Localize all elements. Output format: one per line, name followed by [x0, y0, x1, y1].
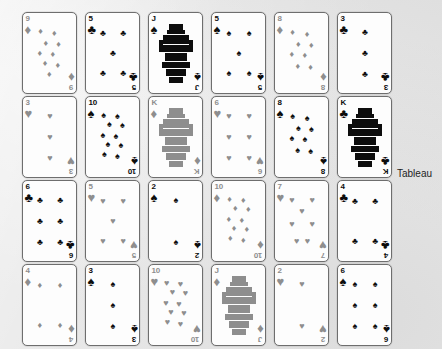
card-pip-field: ♥♥♥♥♥♥♥♥♥♥	[158, 276, 194, 334]
pip-diamond-icon: ♦	[43, 59, 48, 68]
pip-club-icon: ♣	[57, 196, 63, 205]
card-pip-field: ♥♥	[284, 276, 320, 334]
card-suit-spade-icon: ♠	[131, 155, 138, 168]
card-pip-field: ♣♣♣♣♣♣	[32, 192, 68, 250]
pip-diamond-icon: ♦	[305, 30, 310, 39]
playing-card[interactable]: 9♦9♦♦♦♦♦♦♦♦♦♦	[22, 12, 77, 94]
playing-card[interactable]: 7♥7♥♥♥♥♥♥♥♥	[274, 180, 329, 262]
pip-heart-icon: ♥	[226, 133, 231, 142]
playing-card[interactable]: K♦K♦	[148, 96, 203, 178]
pip-diamond-icon: ♦	[232, 223, 237, 232]
playing-card[interactable]: 3♣3♣♣♣♣	[337, 12, 392, 94]
playing-card[interactable]: 8♠8♠♠♠♠♠♠♠♠♠	[274, 96, 329, 178]
pip-heart-icon: ♥	[100, 197, 105, 206]
card-suit-spade-icon: ♠	[194, 239, 201, 252]
card-suit-spade-icon: ♠	[151, 191, 158, 204]
card-suit-diamond-icon: ♦	[25, 23, 32, 36]
pip-spade-icon: ♠	[227, 29, 232, 38]
pip-spade-icon: ♠	[174, 196, 179, 205]
playing-card[interactable]: J♠J♠	[148, 12, 203, 94]
playing-card[interactable]: 5♥5♥♥♥♥♥♥	[85, 180, 140, 262]
pip-heart-icon: ♥	[110, 217, 115, 226]
pip-club-icon: ♣	[120, 29, 126, 38]
pip-spade-icon: ♠	[174, 237, 179, 246]
playing-card[interactable]: 4♦4♦♦♦♦♦	[22, 264, 77, 346]
playing-card[interactable]: J♦J♦	[211, 264, 266, 346]
pip-spade-icon: ♠	[107, 120, 112, 129]
card-suit-spade-icon: ♠	[320, 155, 327, 168]
pip-club-icon: ♣	[362, 69, 368, 78]
pip-club-icon: ♣	[362, 49, 368, 58]
playing-card[interactable]: 4♣4♣♣♣♣♣	[337, 180, 392, 262]
card-suit-diamond-icon: ♦	[214, 191, 221, 204]
card-suit-diamond-icon: ♦	[320, 71, 327, 84]
pip-heart-icon: ♥	[289, 219, 294, 228]
playing-card[interactable]: 6♥6♥♥♥♥♥♥♥	[211, 96, 266, 178]
pip-heart-icon: ♥	[168, 307, 173, 316]
playing-card[interactable]: 3♠3♠♠♠♠	[85, 264, 140, 346]
pip-diamond-icon: ♦	[308, 62, 313, 71]
pip-spade-icon: ♠	[353, 321, 358, 330]
card-pip-field: ♥♥♥♥♥	[95, 192, 131, 250]
pip-diamond-icon: ♦	[290, 28, 295, 37]
playing-card[interactable]: 2♠2♠♠♠	[148, 180, 203, 262]
card-suit-diamond-icon: ♦	[68, 71, 75, 84]
card-pip-field: ♦♦♦♦	[32, 276, 68, 334]
pip-club-icon: ♣	[362, 28, 368, 37]
pip-club-icon: ♣	[57, 217, 63, 226]
card-suit-spade-icon: ♠	[131, 323, 138, 336]
pip-heart-icon: ♥	[165, 318, 170, 327]
card-pip-field: ♥♥♥♥♥♥♥	[284, 192, 320, 250]
playing-card[interactable]: K♣K♣	[337, 96, 392, 178]
pip-heart-icon: ♥	[47, 153, 52, 162]
court-figure	[159, 22, 193, 84]
card-suit-diamond-icon: ♦	[194, 155, 201, 168]
pip-diamond-icon: ♦	[303, 51, 308, 60]
playing-card[interactable]: 6♣6♣♣♣♣♣♣♣	[22, 180, 77, 262]
card-suit-spade-icon: ♠	[214, 23, 221, 36]
pip-spade-icon: ♠	[309, 124, 314, 133]
pip-spade-icon: ♠	[305, 114, 310, 123]
card-pip-field: ♠♠♠♠♠♠♠♠	[284, 108, 320, 166]
pip-diamond-icon: ♦	[233, 204, 238, 213]
pip-club-icon: ♣	[37, 237, 43, 246]
pip-spade-icon: ♠	[353, 301, 358, 310]
pip-spade-icon: ♠	[373, 280, 378, 289]
pip-club-icon: ♣	[100, 29, 106, 38]
pip-spade-icon: ♠	[102, 150, 107, 159]
pip-club-icon: ♣	[110, 49, 116, 58]
playing-card[interactable]: 5♣5♣♣♣♣♣♣	[85, 12, 140, 94]
playing-card[interactable]: 10♥10♥♥♥♥♥♥♥♥♥♥♥	[148, 264, 203, 346]
pip-heart-icon: ♥	[170, 288, 175, 297]
pip-diamond-icon: ♦	[295, 61, 300, 70]
pip-heart-icon: ♥	[164, 278, 169, 287]
card-suit-spade-icon: ♠	[340, 275, 347, 288]
pip-spade-icon: ♠	[302, 135, 307, 144]
playing-card[interactable]: 10♦10♦♦♦♦♦♦♦♦♦♦♦	[211, 180, 266, 262]
playing-card[interactable]: 2♥2♥♥♥	[274, 264, 329, 346]
pip-diamond-icon: ♦	[290, 50, 295, 59]
card-suit-diamond-icon: ♦	[151, 107, 158, 120]
playing-card[interactable]: 10♠10♠♠♠♠♠♠♠♠♠♠♠	[85, 96, 140, 178]
pip-diamond-icon: ♦	[240, 215, 245, 224]
card-pip-field: ♦♦♦♦♦♦♦♦♦	[32, 24, 68, 82]
pip-club-icon: ♣	[120, 68, 126, 77]
pip-spade-icon: ♠	[290, 134, 295, 143]
card-suit-spade-icon: ♠	[88, 275, 95, 288]
card-pip-field: ♠♠	[158, 192, 194, 250]
pip-spade-icon: ♠	[373, 301, 378, 310]
playing-card[interactable]: 6♠6♠♠♠♠♠♠♠	[337, 264, 392, 346]
court-figure	[159, 106, 193, 168]
pip-spade-icon: ♠	[373, 321, 378, 330]
playing-card[interactable]: 5♠5♠♠♠♠♠♠	[211, 12, 266, 94]
pip-heart-icon: ♥	[299, 206, 304, 215]
pip-spade-icon: ♠	[106, 139, 111, 148]
playing-card[interactable]: 8♦8♦♦♦♦♦♦♦♦♦	[274, 12, 329, 94]
playing-card[interactable]: 3♥3♥♥♥♥	[22, 96, 77, 178]
pip-spade-icon: ♠	[111, 280, 116, 289]
pip-heart-icon: ♥	[299, 321, 304, 330]
card-pip-field: ♦♦♦♦♦♦♦♦	[284, 24, 320, 82]
card-pip-field: ♠♠♠	[95, 276, 131, 334]
pip-spade-icon: ♠	[308, 146, 313, 155]
pip-diamond-icon: ♦	[245, 225, 250, 234]
